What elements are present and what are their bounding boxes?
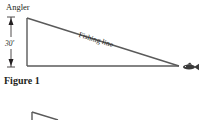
fish-icon [183, 63, 199, 71]
figure-caption: Figure 1 [4, 76, 40, 86]
angler-label: Angler [6, 3, 30, 12]
height-label: 30′ [5, 40, 14, 48]
figure-2-partial-triangle [32, 112, 58, 120]
figure-1-diagram [0, 0, 203, 120]
